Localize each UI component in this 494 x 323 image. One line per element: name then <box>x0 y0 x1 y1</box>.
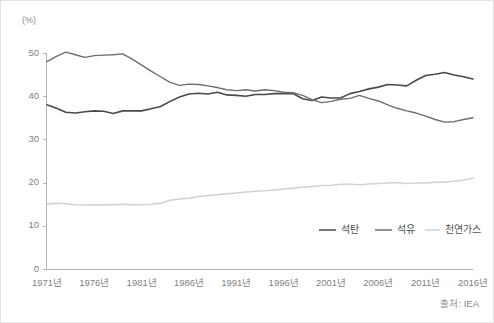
series-line-천연가스 <box>47 178 473 205</box>
series-line-석유 <box>47 52 473 122</box>
x-tick-label: 1976년 <box>79 277 109 288</box>
legend-item-천연가스[interactable]: 천연가스 <box>425 224 481 235</box>
y-tick-label: 40 <box>28 90 39 101</box>
line-chart-plot: 01020304050 1971년1976년1981년1986년1991년199… <box>1 1 494 323</box>
x-tick-label: 2001년 <box>316 277 346 288</box>
data-series-group <box>47 52 473 205</box>
x-tick-label: 1981년 <box>127 277 157 288</box>
y-tick-label: 20 <box>28 176 39 187</box>
y-tick-label: 50 <box>28 47 39 58</box>
legend-item-석유[interactable]: 석유 <box>375 224 415 235</box>
y-axis-tick-labels: 01020304050 <box>28 47 39 274</box>
x-tick-label: 2016년 <box>458 277 488 288</box>
x-axis-tick-labels: 1971년1976년1981년1986년1991년1996년2001년2006년… <box>32 277 488 288</box>
series-line-석탄 <box>47 72 473 113</box>
x-tick-label: 2006년 <box>363 277 393 288</box>
x-tick-label: 1991년 <box>221 277 251 288</box>
y-tick-label: 0 <box>34 263 39 274</box>
chart-figure: (%) 01020304050 1971년1976년1981년1986년1991… <box>0 0 494 323</box>
y-tick-label: 30 <box>28 133 39 144</box>
x-tick-label: 1971년 <box>32 277 62 288</box>
x-tick-label: 2011년 <box>411 277 440 288</box>
x-tick-label: 1996년 <box>269 277 299 288</box>
legend-label-석유: 석유 <box>397 224 415 235</box>
legend-label-석탄: 석탄 <box>341 224 359 235</box>
source-note: 출처: IEA <box>440 296 479 310</box>
chart-legend: 석탄석유천연가스 <box>319 224 481 235</box>
x-tick-label: 1986년 <box>174 277 204 288</box>
legend-label-천연가스: 천연가스 <box>445 224 481 235</box>
y-tick-label: 10 <box>28 219 39 230</box>
legend-item-석탄[interactable]: 석탄 <box>319 224 359 235</box>
